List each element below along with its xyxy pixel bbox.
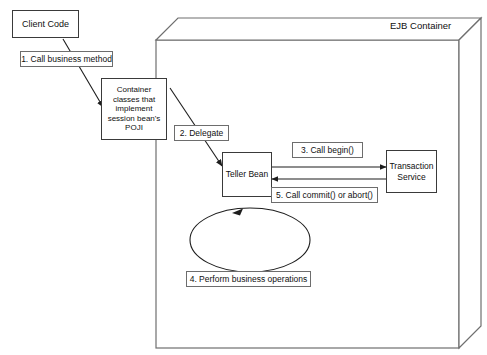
node-transaction-service[interactable]: Transaction Service — [386, 150, 437, 193]
step-label-3-text: 3. Call begin() — [301, 145, 354, 155]
node-container-classes-label: Container classes that implement session… — [102, 85, 166, 132]
arrow-call-business-method — [63, 39, 103, 107]
node-container-classes[interactable]: Container classes that implement session… — [101, 78, 167, 140]
ejb-container-title: EJB Container — [390, 20, 451, 31]
node-teller-bean[interactable]: Teller Bean — [222, 152, 272, 197]
step-label-4[interactable]: 4. Perform business operations — [186, 271, 311, 287]
node-client-code-label: Client Code — [13, 19, 78, 30]
node-client-code[interactable]: Client Code — [12, 10, 79, 38]
step-label-2-text: 2. Delegate — [180, 128, 223, 138]
ejb-container-diagram: Client Code 1. Call business method Cont… — [0, 0, 487, 355]
node-transaction-service-label: Transaction Service — [387, 161, 436, 181]
node-teller-bean-label: Teller Bean — [223, 169, 271, 179]
step-label-5-text: 5. Call commit() or abort() — [276, 190, 373, 200]
step-label-1[interactable]: 1. Call business method — [20, 51, 113, 67]
step-label-5[interactable]: 5. Call commit() or abort() — [271, 187, 378, 203]
ejb-container-title-text: EJB Container — [390, 20, 451, 31]
step-label-2[interactable]: 2. Delegate — [174, 125, 229, 141]
step-label-1-text: 1. Call business method — [21, 54, 112, 64]
step-label-4-text: 4. Perform business operations — [190, 274, 308, 284]
ejb-container-right-face — [459, 18, 481, 348]
step-label-3[interactable]: 3. Call begin() — [292, 142, 363, 158]
